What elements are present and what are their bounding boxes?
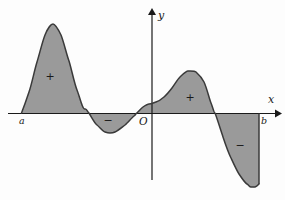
sign-label-positive-1: + (45, 70, 54, 83)
x-axis-arrowhead (275, 110, 282, 118)
x-axis-label: x (268, 93, 275, 106)
left-endpoint-label-a: a (19, 115, 25, 126)
y-axis-label: y (157, 9, 165, 22)
figure-container: x y O a b + − + − (0, 0, 285, 200)
signed-area-chart: x y O a b + − + − (0, 0, 285, 200)
y-axis-arrowhead (148, 8, 156, 15)
shaded-region-positive-1 (22, 24, 90, 113)
shaded-region-negative-1 (89, 113, 137, 133)
right-endpoint-label-b: b (261, 115, 267, 126)
sign-label-negative-1: − (103, 114, 112, 127)
shaded-region-positive-2 (137, 71, 215, 113)
sign-label-positive-2: + (185, 91, 194, 104)
origin-label: O (139, 115, 148, 127)
sign-label-negative-2: − (235, 139, 244, 152)
